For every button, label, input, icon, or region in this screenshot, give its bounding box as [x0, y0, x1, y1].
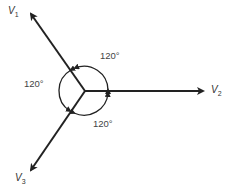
- arc-v2-v3: [74, 93, 108, 115]
- label-v3: V3: [15, 172, 26, 185]
- angle-label-v1-v3: 120°: [24, 78, 44, 89]
- angle-label-v1-v2: 120°: [100, 50, 120, 61]
- angle-label-v2-v3: 120°: [93, 118, 113, 129]
- phasor-diagram: [0, 0, 233, 191]
- label-v1: V1: [8, 5, 19, 18]
- arc-v1-v3: [59, 70, 71, 111]
- label-v2: V2: [211, 84, 222, 97]
- vector-v3: [31, 91, 85, 170]
- arc-v1-v2: [75, 66, 108, 90]
